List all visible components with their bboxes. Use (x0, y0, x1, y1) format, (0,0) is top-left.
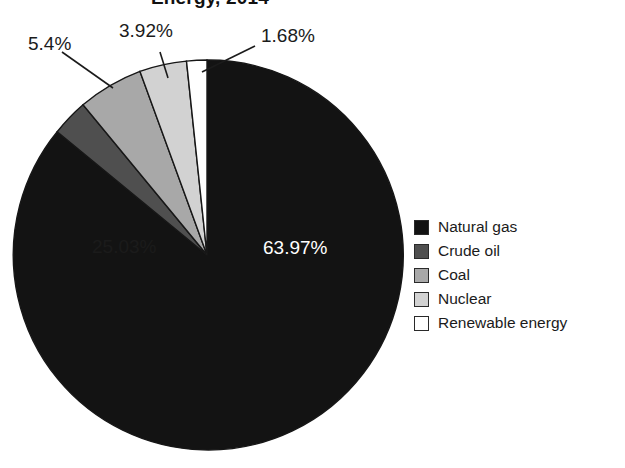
slice-value-crude-oil: 25.03% (92, 236, 157, 257)
slice-value-nuclear: 3.92% (119, 20, 173, 41)
legend-swatch-crude-oil (414, 244, 429, 259)
legend-label-nuclear: Nuclear (438, 291, 491, 307)
legend-label-natural-gas: Natural gas (438, 219, 517, 235)
legend-swatch-nuclear (414, 292, 429, 307)
legend-swatch-natural-gas (414, 220, 429, 235)
legend-item-coal[interactable]: Coal (414, 263, 619, 287)
slice-value-natural-gas: 63.97% (263, 237, 328, 258)
legend-swatch-renewable-energy (414, 316, 429, 331)
legend-label-renewable-energy: Renewable energy (438, 315, 567, 331)
legend-label-crude-oil: Crude oil (438, 243, 500, 259)
pie-chart-figure: Energy, 2014 63.97% 25.03% 5.4% 3.92% 1.… (0, 0, 625, 468)
slice-value-coal: 5.4% (28, 33, 71, 54)
chart-legend: Natural gas Crude oil Coal Nuclear Renew… (414, 215, 619, 335)
legend-item-renewable-energy[interactable]: Renewable energy (414, 311, 619, 335)
leader-line-coal (62, 52, 113, 88)
legend-label-coal: Coal (438, 267, 470, 283)
legend-item-crude-oil[interactable]: Crude oil (414, 239, 619, 263)
legend-item-nuclear[interactable]: Nuclear (414, 287, 619, 311)
legend-swatch-coal (414, 268, 429, 283)
slice-value-renewable-energy: 1.68% (261, 25, 315, 46)
legend-item-natural-gas[interactable]: Natural gas (414, 215, 619, 239)
